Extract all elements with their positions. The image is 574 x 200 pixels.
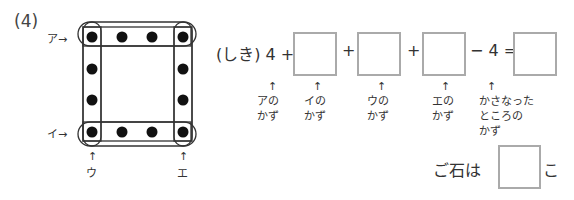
- up-arrow-icon: ↑: [377, 80, 386, 93]
- plus-sign: +: [407, 41, 420, 60]
- minus-part: − 4 =: [470, 41, 517, 60]
- answer-box-a[interactable]: [293, 32, 337, 76]
- up-arrow-icon: ↑: [179, 150, 188, 163]
- caption-u: ウの かず: [367, 94, 389, 124]
- row-label-a: ア→: [47, 30, 67, 46]
- up-arrow-icon: ↑: [268, 80, 277, 93]
- up-arrow-icon: ↑: [88, 150, 97, 163]
- row-label-i: イ→: [47, 125, 67, 141]
- answer-box-u[interactable]: [422, 32, 466, 76]
- equation-prefix: (しき) 4 +: [216, 41, 294, 65]
- plus-sign: +: [342, 41, 355, 60]
- up-arrow-icon: ↑: [441, 80, 450, 93]
- final-answer-box[interactable]: [498, 145, 541, 189]
- caption-e: エの かず: [432, 94, 454, 124]
- col-label-e: エ: [177, 164, 188, 180]
- col-label-u: ウ: [86, 164, 97, 180]
- answer-suffix: こ: [543, 157, 559, 181]
- caption-i: イの かず: [304, 94, 326, 124]
- up-arrow-icon: ↑: [313, 80, 322, 93]
- answer-box-i[interactable]: [357, 32, 401, 76]
- caption-overlap: かさなった ところの かず: [479, 94, 534, 139]
- answer-box-e[interactable]: [513, 32, 557, 76]
- up-arrow-icon: ↑: [487, 80, 496, 93]
- answer-prefix: ご石は: [433, 157, 481, 181]
- caption-a: アの かず: [257, 94, 279, 124]
